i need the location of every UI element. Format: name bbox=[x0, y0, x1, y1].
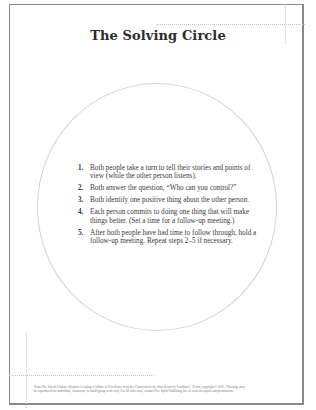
step-item: 5. After both people have had time to fo… bbox=[78, 229, 258, 246]
step-number: 2. bbox=[78, 184, 83, 192]
step-text: Both people take a turn to tell their st… bbox=[90, 164, 250, 180]
step-text: Both identify one positive thing about t… bbox=[90, 196, 249, 204]
footer-line-2: be reproduced for individual, classroom,… bbox=[34, 389, 274, 393]
step-number: 3. bbox=[78, 196, 83, 204]
step-number: 1. bbox=[78, 164, 83, 172]
page-title: The Solving Circle bbox=[0, 28, 316, 43]
step-item: 3. Both identify one positive thing abou… bbox=[78, 196, 258, 204]
step-number: 5. bbox=[78, 229, 83, 237]
step-number: 4. bbox=[78, 208, 83, 216]
crop-mark-bottom-left-horizontal bbox=[9, 375, 154, 376]
step-item: 4. Each person commits to doing one thin… bbox=[78, 208, 258, 225]
step-item: 1. Both people take a turn to tell their… bbox=[78, 164, 258, 181]
copyright-footer: From The School Climate Solution: Creati… bbox=[34, 385, 274, 393]
step-text: Each person commits to doing one thing t… bbox=[90, 208, 249, 224]
step-item: 2. Both answer the question, “Who can yo… bbox=[78, 184, 258, 192]
crop-mark-top-right-horizontal bbox=[157, 24, 305, 25]
crop-mark-bottom-left-vertical bbox=[26, 333, 27, 408]
steps-list: 1. Both people take a turn to tell their… bbox=[78, 164, 258, 249]
step-text: After both people have had time to follo… bbox=[90, 229, 256, 245]
step-text: Both answer the question, “Who can you c… bbox=[90, 184, 237, 192]
